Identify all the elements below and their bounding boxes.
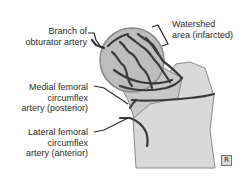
- label-medial-circumflex: Medial femoral circumflex artery (poster…: [21, 82, 88, 114]
- label-lateral-circumflex: Lateral femoral circumflex artery (anter…: [26, 127, 88, 159]
- label-branch-obturator: Branch of obturator artery: [25, 26, 87, 47]
- label-watershed: Watershed area (infarcted): [172, 19, 233, 40]
- logo-badge: R: [221, 155, 232, 166]
